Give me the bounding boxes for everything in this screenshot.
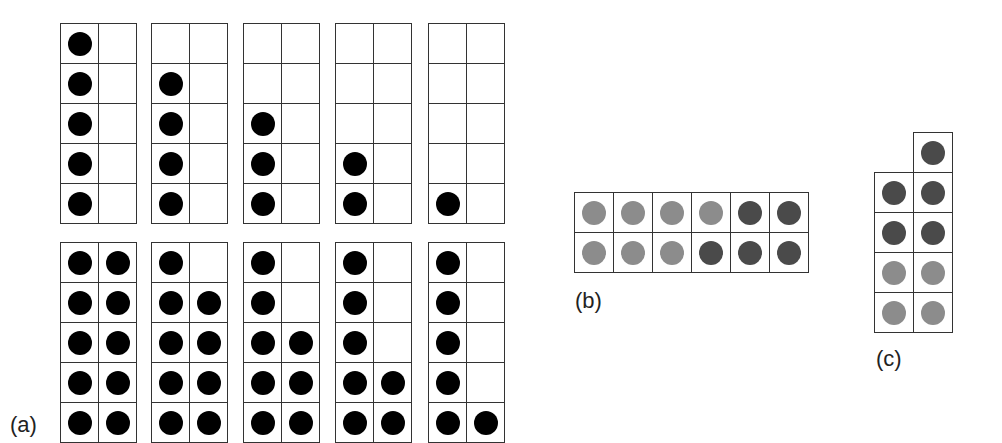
frame-cell <box>913 132 953 173</box>
counter-dot <box>68 331 92 355</box>
frame-cell <box>60 362 99 403</box>
frame-cell <box>60 242 99 283</box>
frame-cell <box>189 242 228 283</box>
frame-cell <box>243 103 282 144</box>
frame-cell <box>151 282 190 323</box>
frame-cell <box>281 322 320 363</box>
frame-cell <box>428 402 467 443</box>
frame-cell <box>466 242 505 283</box>
frame-cell <box>373 183 412 224</box>
counter-dot <box>660 241 684 265</box>
frame-cell <box>335 63 374 104</box>
frame-cell <box>98 322 137 363</box>
frame-cell <box>874 172 914 213</box>
frame-cell <box>189 402 228 443</box>
counter-dot <box>343 152 367 176</box>
frame-cell <box>335 322 374 363</box>
counter-dot <box>159 152 183 176</box>
frame-cell <box>151 242 190 283</box>
counter-dot <box>582 241 606 265</box>
counter-dot <box>197 411 221 435</box>
frame-cell <box>98 282 137 323</box>
counter-dot <box>381 411 405 435</box>
counter-dot <box>106 251 130 275</box>
frame-cell <box>243 183 282 224</box>
frame-cell <box>874 292 914 333</box>
counter-dot <box>436 192 460 216</box>
frame-cell <box>466 103 505 144</box>
frame-cell <box>466 402 505 443</box>
frame-cell <box>428 242 467 283</box>
counter-dot <box>436 251 460 275</box>
counter-dot <box>777 201 801 225</box>
frame-cell <box>874 212 914 253</box>
counter-dot <box>251 192 275 216</box>
frame-cell <box>98 183 137 224</box>
frame-cell <box>189 183 228 224</box>
counter-dot <box>882 181 906 205</box>
frame-cell <box>913 172 953 213</box>
frame-cell <box>373 242 412 283</box>
ten-frame-a-top_row-5 <box>428 23 504 223</box>
counter-dot <box>621 201 645 225</box>
label-b: (b) <box>575 288 602 314</box>
counter-dot <box>660 201 684 225</box>
counter-dot <box>343 291 367 315</box>
frame-cell <box>281 362 320 403</box>
counter-dot <box>251 251 275 275</box>
frame-cell <box>428 183 467 224</box>
frame-cell <box>652 192 692 233</box>
frame-cell <box>373 322 412 363</box>
label-c: (c) <box>876 346 902 372</box>
counter-dot <box>436 411 460 435</box>
label-a: (a) <box>10 412 37 438</box>
frame-cell <box>428 362 467 403</box>
frame-cell <box>691 192 731 233</box>
frame-cell <box>769 192 809 233</box>
counter-dot <box>738 241 762 265</box>
counter-dot <box>436 371 460 395</box>
counter-dot <box>251 371 275 395</box>
counter-dot <box>436 291 460 315</box>
frame-cell <box>373 402 412 443</box>
counter-dot <box>68 371 92 395</box>
counter-dot <box>921 221 945 245</box>
frame-cell <box>466 183 505 224</box>
frame-cell <box>335 183 374 224</box>
counter-dot <box>197 291 221 315</box>
frame-cell <box>98 23 137 64</box>
ten-frame-a-top_row-1 <box>60 23 136 223</box>
frame-cell <box>151 143 190 184</box>
frame-cell <box>189 322 228 363</box>
counter-dot <box>68 291 92 315</box>
counter-dot <box>436 331 460 355</box>
counter-dot <box>159 72 183 96</box>
frame-cell <box>613 192 653 233</box>
frame-cell <box>189 362 228 403</box>
counter-dot <box>251 331 275 355</box>
frame-cell <box>98 362 137 403</box>
frame-cell <box>335 103 374 144</box>
frame-cell <box>60 183 99 224</box>
frame-cell <box>466 282 505 323</box>
counter-dot <box>738 201 762 225</box>
counter-dot <box>882 261 906 285</box>
frame-cell <box>151 103 190 144</box>
counter-dot <box>197 371 221 395</box>
counter-dot <box>921 141 945 165</box>
frame-cell <box>151 23 190 64</box>
counter-dot <box>343 331 367 355</box>
frame-cell <box>60 322 99 363</box>
frame-cell <box>874 252 914 293</box>
counter-dot <box>68 152 92 176</box>
frame-cell <box>98 103 137 144</box>
frame-cell <box>335 242 374 283</box>
counter-dot <box>343 371 367 395</box>
frame-cell <box>428 143 467 184</box>
counter-dot <box>159 291 183 315</box>
frame-cell <box>189 103 228 144</box>
counter-dot <box>251 152 275 176</box>
frame-cell <box>243 362 282 403</box>
frame-cell <box>913 292 953 333</box>
ten-frame-a-bottom_row-5 <box>428 242 504 442</box>
